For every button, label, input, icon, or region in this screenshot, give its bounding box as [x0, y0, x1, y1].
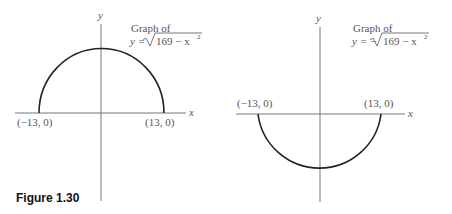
left-y-axis-label: y: [97, 9, 103, 21]
right-graph-formula-prefix: y = −: [351, 35, 377, 47]
right-graph-formula-radicand: 169 − x: [383, 35, 417, 47]
right-graph-formula-exp: 2: [424, 33, 428, 41]
right-graph: x y (−13, 0) (13, 0) Graph of y = − 169 …: [236, 12, 429, 202]
left-graph-formula-prefix: y =: [129, 35, 145, 47]
right-graph-title: Graph of: [353, 22, 393, 34]
figure-canvas: x y (−13, 0) (13, 0) Graph of y = 169 − …: [0, 0, 452, 214]
right-graph-point-neg13: (−13, 0): [237, 97, 273, 110]
left-graph-formula-radicand: 169 − x: [156, 35, 190, 47]
left-graph-title: Graph of: [131, 22, 171, 34]
figure-caption: Figure 1.30: [16, 191, 80, 205]
right-graph-point-13: (13, 0): [364, 97, 394, 110]
left-graph-formula-exp: 2: [197, 33, 201, 41]
left-graph-point-neg13: (−13, 0): [17, 116, 53, 129]
left-graph: x y (−13, 0) (13, 0) Graph of y = 169 − …: [15, 9, 202, 201]
left-graph-point-13: (13, 0): [145, 116, 175, 129]
left-x-axis-label: x: [188, 106, 194, 118]
right-x-axis-label: x: [407, 107, 413, 119]
right-y-axis-label: y: [315, 12, 321, 24]
